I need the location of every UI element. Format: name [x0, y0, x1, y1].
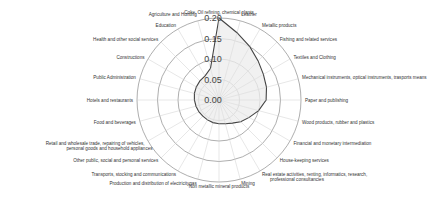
category-label: Public Administration: [93, 75, 136, 80]
category-label: Fishing and related services: [280, 37, 338, 42]
category-label: Production and distribution of electrici…: [109, 181, 197, 186]
category-label: Hotels and restaurants: [87, 98, 134, 103]
category-label: professional consultancies: [270, 177, 325, 182]
category-label: Textiles and Clothing: [293, 55, 336, 60]
category-label: Other public, social and personal servic…: [73, 158, 159, 163]
category-label: Health and other social services: [93, 37, 159, 42]
category-label: Leather: [241, 12, 257, 17]
radial-tick-label: 0.05: [204, 75, 222, 85]
category-label: Transports, stocking and communications: [91, 172, 176, 177]
radial-tick-label: 0.15: [204, 34, 222, 44]
category-label: House-keeping services: [280, 158, 330, 163]
category-label: Paper and publishing: [305, 98, 349, 103]
category-label: Constructions: [116, 55, 145, 60]
radial-tick-label: 0.10: [204, 54, 222, 64]
radial-tick-label: 0.00: [204, 95, 222, 105]
category-label: Metallic products: [262, 23, 297, 28]
category-label: personal goods and household appliances: [66, 146, 153, 151]
category-label: Food and beverages: [94, 120, 137, 125]
category-label: Non metallic mineral products: [189, 184, 250, 189]
category-label: Wood products, rubber and plastics: [302, 120, 375, 125]
radar-chart: 0.000.050.100.150.20 Coke, Oil refining,…: [0, 0, 440, 198]
category-label: Financial and monetary intermediation: [293, 141, 371, 146]
category-label: Mechanical instruments, optical instrume…: [302, 75, 427, 80]
radial-tick-label: 0.20: [204, 13, 222, 23]
category-label: Agriculture and Hunting: [149, 12, 197, 17]
category-label: Education: [156, 23, 177, 28]
